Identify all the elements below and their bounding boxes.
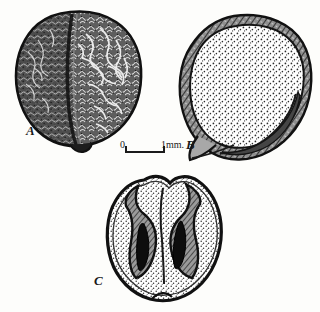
figure-panel-c xyxy=(100,170,230,310)
figure-plate: A xyxy=(0,0,320,312)
scale-bar-tick-left xyxy=(125,146,127,153)
scale-bar-unit-label: 1mm. xyxy=(161,139,184,150)
scale-bar-line xyxy=(125,151,165,153)
figure-c-drawing xyxy=(100,170,230,310)
figure-b-drawing xyxy=(176,8,316,168)
figure-a-label: A xyxy=(26,124,35,137)
figure-panel-b xyxy=(176,8,316,168)
figure-c-label: C xyxy=(94,274,103,287)
figure-b-label: B xyxy=(186,138,195,151)
scale-bar: 0 1mm. xyxy=(118,140,184,158)
